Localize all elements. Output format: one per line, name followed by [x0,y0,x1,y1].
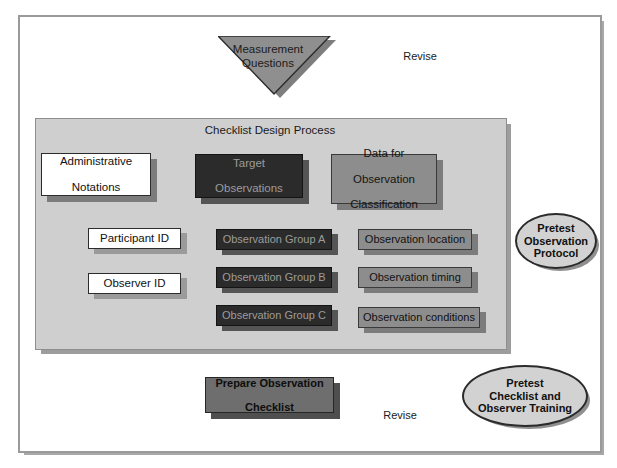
revise-bottom-label: Revise [370,409,430,421]
administrative-notations-line2: Notations [42,181,150,194]
revise-bottom-text: Revise [383,409,417,421]
pretest-checklist-training-ellipse[interactable]: Pretest Checklist and Observer Training [462,365,588,427]
prepare-observation-checklist-box[interactable]: Prepare Observation Checklist [205,377,334,413]
diagram-canvas: Checklist Design Process [0,0,617,468]
participant-id-label: Participant ID [89,232,180,245]
target-observations-box[interactable]: Target Observations [195,154,303,198]
pretest-observation-protocol-ellipse[interactable]: Pretest Observation Protocol [515,213,597,269]
pretest-protocol-line1: Pretest [537,222,574,234]
pretest-training-line1: Pretest [506,377,543,389]
observation-group-b-label: Observation Group B [217,271,331,283]
data-classification-line3: Classification [332,198,436,211]
observation-conditions-label: Observation conditions [359,311,479,323]
pretest-protocol-line2: Observation [524,235,588,247]
observer-id-label: Observer ID [89,277,180,290]
observation-timing-label: Observation timing [359,271,471,283]
measurement-questions-line1: Measurement [233,43,303,55]
panel-title-text: Checklist Design Process [35,124,505,137]
panel-title: Checklist Design Process [35,121,505,139]
administrative-notations-line1: Administrative [42,155,150,168]
observation-group-a-box[interactable]: Observation Group A [216,229,332,250]
observation-conditions-box[interactable]: Observation conditions [358,307,480,328]
observation-location-box[interactable]: Observation location [358,229,472,250]
pretest-training-line2: Checklist and [489,390,561,402]
prepare-checklist-line2: Checklist [206,401,333,413]
measurement-questions-line2: Questions [242,57,294,69]
data-for-observation-classification-box[interactable]: Data for Observation Classification [331,154,437,204]
target-observations-line2: Observations [196,182,302,195]
administrative-notations-box[interactable]: Administrative Notations [41,153,151,196]
observation-group-c-label: Observation Group C [217,309,331,321]
pretest-protocol-line3: Protocol [534,247,579,259]
revise-top-label: Revise [390,50,450,62]
participant-id-box[interactable]: Participant ID [88,228,181,249]
observation-group-b-box[interactable]: Observation Group B [216,267,332,288]
pretest-training-line3: Observer Training [478,402,572,414]
observer-id-box[interactable]: Observer ID [88,273,181,294]
prepare-checklist-line1: Prepare Observation [206,377,333,389]
data-classification-line2: Observation [332,173,436,186]
measurement-questions-label: Measurement Questions [212,43,324,70]
data-classification-line1: Data for [332,147,436,160]
observation-timing-box[interactable]: Observation timing [358,267,472,288]
observation-location-label: Observation location [359,233,471,245]
revise-top-text: Revise [403,50,437,62]
observation-group-a-label: Observation Group A [217,233,331,245]
observation-group-c-box[interactable]: Observation Group C [216,305,332,326]
target-observations-line1: Target [196,157,302,170]
